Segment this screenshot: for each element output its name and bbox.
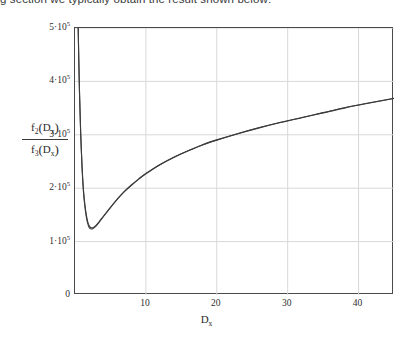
plot-area — [74, 27, 393, 294]
x-tick-label: 30 — [267, 298, 307, 309]
x-axis-label-subscript: x — [209, 319, 213, 328]
x-tick-label: 10 — [125, 298, 165, 309]
plot-canvas — [75, 28, 394, 295]
y-tick-label: 1·105 — [0, 236, 70, 246]
denominator-close-paren: ) — [55, 142, 59, 157]
y-axis-tick-labels: 01·1052·1053·1054·1055·105 — [0, 0, 70, 343]
fraction-bar — [22, 139, 68, 140]
x-tick-label: 40 — [338, 298, 378, 309]
x-axis-label: Dx — [0, 313, 413, 325]
y-axis-label-denominator: f3(Dx) — [16, 142, 74, 160]
denominator-arg: D — [43, 143, 51, 155]
x-axis-label-main: D — [201, 313, 209, 325]
curve-curve-lower — [78, 28, 394, 229]
data-curves — [78, 28, 394, 229]
y-axis-label-numerator: f2(Dx) — [16, 120, 74, 138]
chart-figure: 01·1052·1053·1054·1055·105 10203040 f2(D… — [0, 0, 413, 343]
numerator-close-paren: ) — [55, 120, 59, 135]
x-tick-label: 20 — [196, 298, 236, 309]
y-tick-label: 5·105 — [0, 22, 70, 32]
y-axis-label: f2(Dx) f3(Dx) — [16, 120, 74, 160]
y-tick-label: 2·105 — [0, 182, 70, 192]
numerator-arg: D — [43, 121, 51, 133]
curve-curve-upper — [78, 28, 394, 228]
y-tick-label: 0 — [0, 289, 70, 299]
y-tick-label: 4·105 — [0, 75, 70, 85]
gridlines — [75, 28, 394, 295]
